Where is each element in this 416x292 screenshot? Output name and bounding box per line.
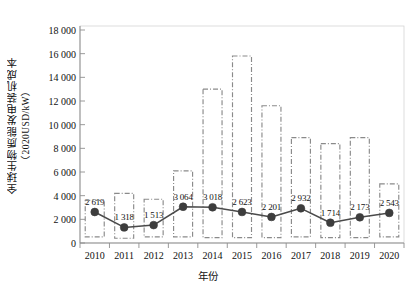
series-marker — [385, 209, 393, 217]
plot-area — [0, 0, 416, 292]
series-marker — [238, 208, 246, 216]
series-marker — [150, 221, 158, 229]
series-marker — [120, 224, 128, 232]
series-marker — [209, 203, 217, 211]
series-marker — [356, 213, 364, 221]
series-marker — [326, 219, 334, 227]
series-marker — [179, 203, 187, 211]
chart-container: 全球生物质能发电装机成本 （2020USD/kW） 02 0004 0006 0… — [0, 0, 416, 292]
range-box — [85, 200, 104, 236]
range-box — [203, 89, 222, 238]
series-marker — [268, 213, 276, 221]
series-marker — [91, 208, 99, 216]
range-box — [350, 138, 369, 238]
range-box — [291, 138, 310, 237]
series-marker — [297, 204, 305, 212]
range-box — [144, 199, 163, 237]
